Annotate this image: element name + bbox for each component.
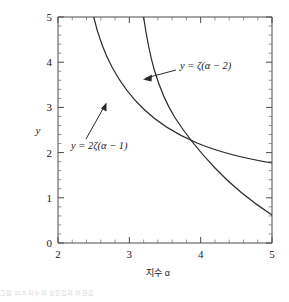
y-tick-label: 0 <box>47 237 53 249</box>
figure-container: 0 1 2 3 4 5 2 3 4 5 y 지수 α y = ζ(α − 2) … <box>0 0 289 302</box>
y-axis-title: y <box>35 124 41 136</box>
y-tick-label: 2 <box>47 147 53 159</box>
x-tick-label: 4 <box>198 248 204 260</box>
x-axis-title: 지수 α <box>146 268 170 278</box>
y-tick-label: 4 <box>47 56 53 68</box>
annotation-label-lower: y = 2ζ(α − 1) <box>70 140 128 152</box>
x-tick-label: 2 <box>55 248 61 260</box>
chart-svg: 0 1 2 3 4 5 2 3 4 5 y 지수 α y = ζ(α − 2) … <box>0 0 289 302</box>
y-tick-label: 1 <box>47 192 53 204</box>
chart-background <box>0 0 289 302</box>
x-tick-label: 3 <box>127 248 133 260</box>
y-tick-label: 3 <box>47 101 53 113</box>
y-tick-label: 5 <box>47 11 53 23</box>
annotation-label-upper: y = ζ(α − 2) <box>179 60 232 72</box>
x-tick-label: 5 <box>269 248 275 260</box>
figure-caption: 그림 11.5 지수의 상한값과 하한값 <box>0 288 160 300</box>
